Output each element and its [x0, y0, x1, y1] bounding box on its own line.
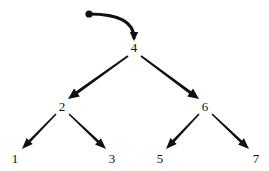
- root-pointer-dot-icon: [85, 10, 92, 17]
- tree-node-4: 4: [131, 41, 138, 54]
- tree-edge-4-to-6: [140, 55, 199, 99]
- tree-node-3: 3: [109, 152, 116, 165]
- tree-node-2: 2: [59, 100, 66, 113]
- root-pointer: [85, 10, 138, 41]
- tree-edge-4-to-2: [68, 55, 129, 99]
- tree-diagram-canvas: 4261357: [0, 0, 269, 171]
- tree-node-6: 6: [202, 100, 209, 113]
- edge-layer: [22, 55, 249, 149]
- tree-edge-2-to-3: [68, 113, 106, 149]
- tree-graphics: [0, 0, 269, 171]
- tree-edge-6-to-5: [166, 113, 200, 149]
- root-pointer-curve: [89, 14, 134, 38]
- tree-edge-2-to-1: [22, 113, 57, 149]
- tree-edge-6-to-7: [211, 113, 249, 149]
- tree-node-7: 7: [253, 152, 260, 165]
- tree-node-5: 5: [157, 152, 164, 165]
- tree-node-1: 1: [12, 152, 19, 165]
